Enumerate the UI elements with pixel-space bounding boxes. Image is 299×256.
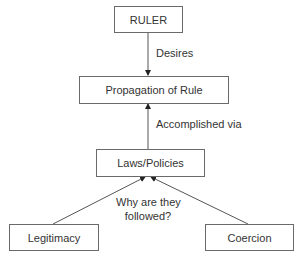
node-legitimacy: Legitimacy xyxy=(9,224,99,251)
node-laws-policies: Laws/Policies xyxy=(96,149,205,177)
edge-label-why-line2: followed? xyxy=(116,210,180,222)
edge-label-desires: Desires xyxy=(156,47,193,59)
node-ruler: RULER xyxy=(114,6,183,33)
node-coercion: Coercion xyxy=(205,224,294,251)
edge-label-accomplished-via: Accomplished via xyxy=(156,118,242,130)
node-propagation-of-rule: Propagation of Rule xyxy=(79,76,229,104)
edge-label-why-line1: Why are they xyxy=(116,196,180,208)
